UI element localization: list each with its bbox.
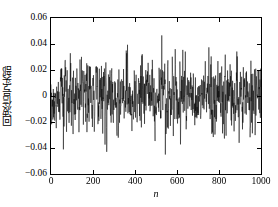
y-tick-mark bbox=[257, 44, 261, 45]
y-tick-label: −0.04 bbox=[25, 143, 47, 153]
y-tick-mark bbox=[51, 96, 55, 97]
y-tick-label: 0.02 bbox=[30, 65, 47, 75]
y-tick-label: 0.06 bbox=[30, 13, 47, 23]
signal-trace bbox=[51, 18, 261, 174]
x-tick-label: 800 bbox=[212, 177, 226, 187]
figure-container: 回波信号实部 −0.06−0.04−0.0200.020.040.06 0200… bbox=[0, 0, 278, 207]
x-tick-label: 0 bbox=[49, 177, 54, 187]
x-tick-mark bbox=[219, 170, 220, 174]
y-tick-mark bbox=[257, 70, 261, 71]
plot-area bbox=[50, 17, 262, 175]
x-tick-mark bbox=[219, 18, 220, 22]
x-axis-label: n bbox=[50, 189, 262, 199]
y-tick-label: 0 bbox=[42, 91, 47, 101]
y-tick-label: 0.04 bbox=[30, 39, 47, 49]
y-tick-mark bbox=[257, 96, 261, 97]
y-tick-mark bbox=[51, 148, 55, 149]
x-tick-mark bbox=[177, 170, 178, 174]
y-tick-label: −0.06 bbox=[25, 169, 47, 179]
x-tick-mark bbox=[93, 170, 94, 174]
y-tick-mark bbox=[257, 122, 261, 123]
x-tick-label: 1000 bbox=[252, 177, 271, 187]
x-tick-label: 200 bbox=[86, 177, 100, 187]
y-axis-tick-labels: −0.06−0.04−0.0200.020.040.06 bbox=[0, 17, 47, 175]
y-tick-mark bbox=[51, 44, 55, 45]
x-tick-label: 400 bbox=[128, 177, 142, 187]
x-tick-label: 600 bbox=[170, 177, 184, 187]
x-tick-mark bbox=[135, 170, 136, 174]
y-tick-mark bbox=[51, 70, 55, 71]
x-tick-mark bbox=[93, 18, 94, 22]
y-tick-mark bbox=[51, 122, 55, 123]
x-tick-mark bbox=[135, 18, 136, 22]
y-tick-label: −0.02 bbox=[25, 117, 47, 127]
y-tick-mark bbox=[257, 148, 261, 149]
x-tick-mark bbox=[177, 18, 178, 22]
